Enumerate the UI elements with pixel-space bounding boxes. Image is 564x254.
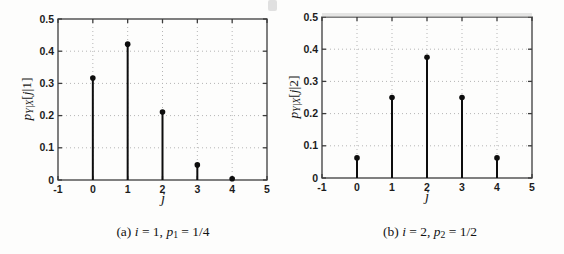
svg-text:3: 3: [459, 181, 465, 193]
x-axis-label-b: j: [407, 188, 447, 205]
svg-text:4: 4: [494, 181, 500, 193]
svg-text:5: 5: [529, 181, 535, 193]
stem-marker: [354, 155, 360, 161]
stem-marker: [459, 95, 465, 101]
svg-text:0: 0: [354, 181, 360, 193]
svg-text:0.5: 0.5: [303, 11, 318, 23]
tick-labels: -101234500.10.20.30.40.5: [39, 13, 270, 196]
stem-plot-figure: -101234500.10.20.30.40.5 pY|X[j|1] j (a)…: [0, 0, 564, 254]
svg-text:0.1: 0.1: [303, 139, 318, 151]
svg-text:0.3: 0.3: [303, 75, 318, 87]
svg-text:0.4: 0.4: [303, 43, 318, 55]
svg-text:5: 5: [264, 183, 270, 195]
stems: [354, 54, 500, 178]
stem-marker: [195, 162, 201, 168]
svg-text:0.4: 0.4: [39, 45, 54, 57]
svg-text:0.2: 0.2: [303, 107, 318, 119]
svg-text:0: 0: [48, 174, 54, 186]
stem-plot-b: -101234500.10.20.30.40.5 pY|X[j|2] j (b)…: [282, 0, 564, 254]
svg-text:3: 3: [194, 183, 200, 195]
svg-text:4: 4: [229, 183, 235, 195]
plot-canvas-a: -101234500.10.20.30.40.5: [0, 0, 282, 215]
stem-marker: [229, 176, 235, 182]
tick-labels: -101234500.10.20.30.40.5: [303, 11, 535, 194]
y-axis-label-b: pY|X[j|2]: [285, 32, 303, 162]
svg-text:-1: -1: [317, 181, 326, 193]
plot-canvas-b: -101234500.10.20.30.40.5: [282, 0, 564, 215]
svg-text:0.5: 0.5: [39, 13, 54, 25]
y-axis-label-a: pY|X[j|1]: [18, 34, 36, 164]
stems: [90, 41, 235, 181]
stem-marker: [160, 109, 166, 115]
svg-text:1: 1: [389, 181, 395, 193]
x-axis-label-a: j: [143, 190, 183, 207]
svg-text:0: 0: [90, 183, 96, 195]
caption-b: (b) i = 2, p2 = 1/2: [310, 224, 550, 240]
svg-text:-1: -1: [53, 183, 62, 195]
svg-text:1: 1: [125, 183, 131, 195]
stem-marker: [125, 41, 131, 47]
caption-a: (a) i = 1, p1 = 1/4: [43, 224, 283, 240]
svg-text:0: 0: [312, 172, 318, 184]
svg-text:0.2: 0.2: [39, 109, 54, 121]
stem-marker: [389, 95, 395, 101]
stem-marker: [424, 54, 430, 60]
stem-plot-a: -101234500.10.20.30.40.5 pY|X[j|1] j (a)…: [0, 0, 282, 254]
stem-marker: [494, 155, 500, 161]
svg-text:0.3: 0.3: [39, 77, 54, 89]
svg-text:0.1: 0.1: [39, 141, 54, 153]
stem-marker: [90, 75, 96, 81]
